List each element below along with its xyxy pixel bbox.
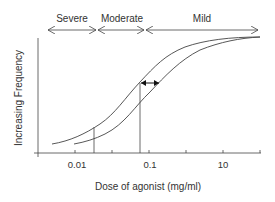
severity-ranges: Severe Moderate Mild bbox=[48, 13, 258, 30]
x-ticks bbox=[38, 150, 260, 157]
mild-label: Mild bbox=[193, 13, 211, 24]
severe-label: Severe bbox=[56, 13, 88, 24]
curves bbox=[52, 37, 260, 144]
x-axis-label: Dose of agonist (mg/ml) bbox=[95, 181, 201, 192]
moderate-label: Moderate bbox=[101, 13, 144, 24]
curve-right bbox=[74, 37, 260, 144]
y-axis-label: Increasing Frequency bbox=[13, 50, 24, 146]
curve-left bbox=[52, 37, 260, 144]
axes: 0.01 0.1 10 Dose of agonist (mg/ml) Incr… bbox=[13, 38, 261, 192]
x-tick-label-0.1: 0.1 bbox=[143, 159, 156, 170]
dose-response-diagram: Severe Moderate Mild 0.01 0.1 10 Dose of… bbox=[0, 0, 275, 202]
x-tick-label-10: 10 bbox=[218, 159, 229, 170]
x-tick-label-0.01: 0.01 bbox=[68, 159, 87, 170]
